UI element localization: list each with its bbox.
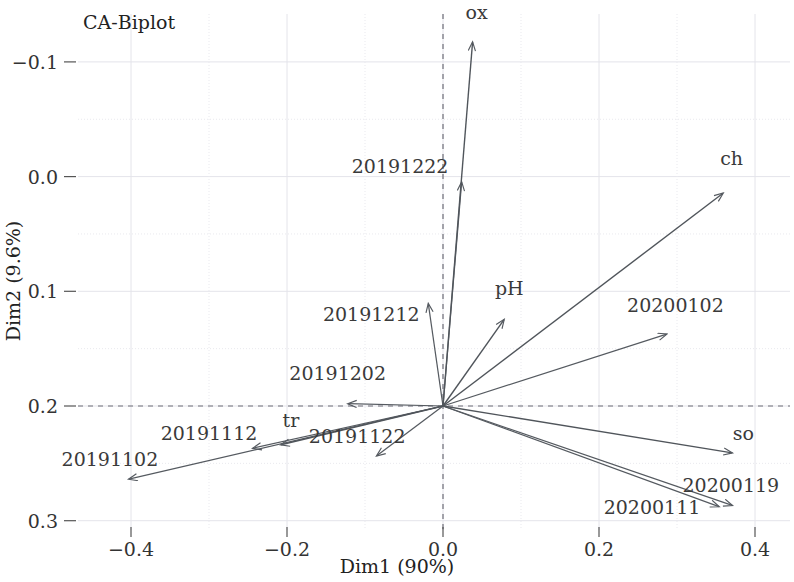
y-tick-label: 0.1 <box>28 280 58 302</box>
row-label-20191122: 20191122 <box>309 425 406 447</box>
row-label-20191212: 20191212 <box>323 303 420 325</box>
variable-label-tr: tr <box>283 409 301 431</box>
row-label-20200119: 20200119 <box>682 474 779 496</box>
y-tick-label: −0.1 <box>12 51 58 73</box>
x-axis-title: Dim1 (90%) <box>340 555 455 577</box>
y-axis-title: Dim2 (9.6%) <box>2 221 24 342</box>
x-tick-label: 0.4 <box>740 538 770 560</box>
row-label-20191102: 20191102 <box>62 448 159 470</box>
row-label-20200102: 20200102 <box>627 294 724 316</box>
row-label-20191112: 20191112 <box>161 422 258 444</box>
variable-label-ch: ch <box>720 147 743 169</box>
row-label-20191222: 20191222 <box>352 155 449 177</box>
biplot-canvas: −0.4−0.20.00.20.40.30.20.10.0−0.1 201912… <box>0 0 794 582</box>
y-tick-label: 0.3 <box>28 510 58 532</box>
variable-label-pH: pH <box>495 277 524 299</box>
x-tick-label: −0.2 <box>264 538 310 560</box>
variable-label-ox: ox <box>465 1 487 23</box>
y-tick-label: 0.2 <box>28 395 58 417</box>
ca-biplot-figure: −0.4−0.20.00.20.40.30.20.10.0−0.1 201912… <box>0 0 794 582</box>
page-title: CA-Biplot <box>83 11 175 33</box>
row-label-20191202: 20191202 <box>289 362 386 384</box>
y-tick-label: 0.0 <box>28 166 58 188</box>
x-tick-label: 0.2 <box>584 538 614 560</box>
variable-label-so: so <box>733 422 754 444</box>
row-label-20200111: 20200111 <box>604 496 701 518</box>
x-tick-label: −0.4 <box>108 538 154 560</box>
